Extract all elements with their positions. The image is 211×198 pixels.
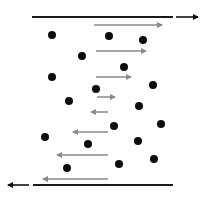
plates-group (8, 17, 198, 185)
particle-dot (149, 81, 157, 89)
particle-dot (63, 164, 71, 172)
particle-dot (120, 63, 128, 71)
particle-dot (110, 122, 118, 130)
particle-dot (41, 133, 49, 141)
particle-dot (157, 120, 165, 128)
particle-dot (139, 36, 147, 44)
particle-dot (105, 32, 113, 40)
particle-dot (115, 160, 123, 168)
particle-dot (48, 31, 56, 39)
particle-dot (84, 140, 92, 148)
velocity-arrows-group (43, 25, 162, 179)
particle-dot (48, 73, 56, 81)
particle-dot (150, 155, 158, 163)
particles-group (41, 31, 165, 172)
particle-dot (65, 97, 73, 105)
particle-dot (134, 137, 142, 145)
shear-flow-diagram (0, 0, 211, 198)
particle-dot (135, 102, 143, 110)
particle-dot (92, 85, 100, 93)
particle-dot (78, 52, 86, 60)
